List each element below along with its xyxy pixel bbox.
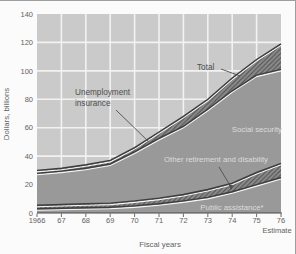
x-tick-label: 69 — [106, 216, 114, 225]
unemployment-insurance-label-line2: insurance — [75, 99, 111, 108]
x-tick-label: 70 — [130, 216, 138, 225]
x-tick-label: 72 — [179, 216, 187, 225]
x-tick-label: 75 — [252, 216, 260, 225]
public-assistance-label: Public assistance* — [200, 203, 263, 212]
x-tick-label: 73 — [204, 216, 212, 225]
y-tick-label: 60 — [25, 123, 33, 132]
social-security-label: Social security — [232, 125, 282, 134]
x-axis-title: Fiscal years — [139, 240, 181, 249]
other-retirement-label: Other retirement and disability — [164, 155, 268, 164]
y-tick-label: 20 — [25, 180, 33, 189]
spending-chart-figure: 1966676869707172737475760204060801001201… — [0, 0, 296, 254]
y-tick-label: 120 — [20, 38, 33, 47]
y-tick-label: 80 — [25, 95, 33, 104]
x-tick-label: 71 — [155, 216, 163, 225]
x-tick-label: 68 — [82, 216, 90, 225]
unemployment-insurance-label-line1: Unemployment — [75, 88, 131, 97]
x-tick-label: 74 — [228, 216, 236, 225]
y-tick-label: 140 — [20, 10, 33, 19]
x-tick-label: 67 — [57, 216, 65, 225]
y-tick-label: 40 — [25, 152, 33, 161]
stacked-area-chart: 1966676869707172737475760204060801001201… — [0, 1, 296, 254]
y-tick-label: 0 — [29, 209, 33, 218]
y-tick-label: 100 — [20, 67, 33, 76]
estimate-note: Estimate — [262, 226, 291, 235]
total-label: Total — [197, 63, 214, 72]
y-axis-title: Dollars, billions — [2, 88, 11, 141]
x-tick-label: 76 — [277, 216, 285, 225]
